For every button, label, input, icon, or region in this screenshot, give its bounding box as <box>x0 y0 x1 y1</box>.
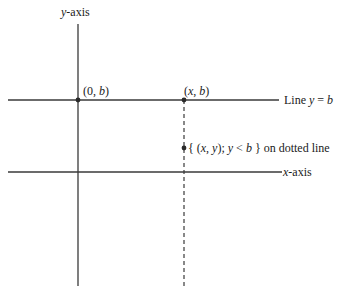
set-description-label: { (x, y); y < b } on dotted line <box>188 141 330 155</box>
point-x-b <box>182 98 187 103</box>
x-axis-label: x-axis <box>282 165 312 179</box>
point-x-b-label: (x, b) <box>184 84 209 98</box>
point-0-b-label: (0, b) <box>83 84 109 98</box>
line-y-equals-b-label: Line y = b <box>284 93 333 107</box>
point-x-y-below <box>182 146 187 151</box>
y-axis-label: y-axis <box>60 5 90 19</box>
coordinate-diagram: y-axis (0, b) (x, b) Line y = b { (x, y)… <box>0 0 338 290</box>
point-0-b <box>76 98 81 103</box>
